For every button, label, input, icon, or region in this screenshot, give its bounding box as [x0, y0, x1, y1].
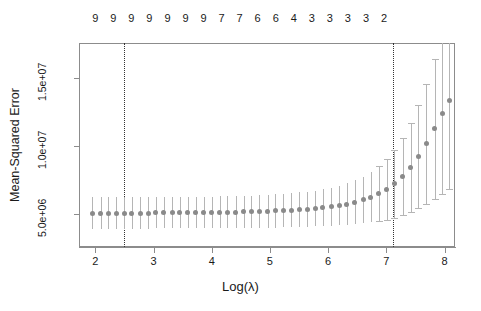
error-bar-cap — [408, 212, 415, 213]
x-tick — [386, 248, 387, 253]
error-bar-cap — [376, 166, 383, 167]
error-bar-cap — [408, 123, 415, 124]
x-tick-label: 8 — [435, 255, 455, 267]
error-bar-cap — [423, 84, 430, 85]
top-tick-label: 4 — [284, 12, 304, 24]
data-point — [209, 210, 214, 215]
x-tick-label: 6 — [318, 255, 338, 267]
data-point — [122, 211, 127, 216]
data-point — [281, 208, 286, 213]
top-tick-label: 9 — [157, 12, 177, 24]
top-tick-label: 3 — [320, 12, 340, 24]
top-tick-label: 7 — [230, 12, 250, 24]
top-tick-label: 6 — [248, 12, 268, 24]
error-bar-cap — [439, 194, 446, 195]
y-tick-label: 1.0e+07 — [36, 131, 48, 169]
x-axis-line — [79, 247, 456, 248]
data-point — [249, 209, 254, 214]
x-tick — [328, 248, 329, 253]
error-bar-cap — [432, 199, 439, 200]
x-tick — [154, 248, 155, 253]
data-point — [305, 207, 310, 212]
y-axis-label: Mean-Squared Error — [8, 88, 22, 202]
data-point — [177, 210, 182, 215]
x-tick-label: 3 — [144, 255, 164, 267]
error-bar-cap — [415, 105, 422, 106]
error-bar-cap — [432, 59, 439, 60]
error-bar — [449, 43, 450, 189]
error-bar-cap — [384, 220, 391, 221]
data-point — [416, 154, 421, 159]
error-bar — [442, 43, 443, 194]
top-tick-label: 9 — [121, 12, 141, 24]
x-tick-label: 4 — [202, 255, 222, 267]
error-bar-cap — [400, 215, 407, 216]
x-tick — [270, 248, 271, 253]
y-tick-label: 1.5e+07 — [36, 63, 48, 101]
data-point — [257, 209, 262, 214]
x-tick — [212, 248, 213, 253]
data-point — [273, 208, 278, 213]
data-point — [114, 211, 119, 216]
x-tick — [95, 248, 96, 253]
data-point — [368, 195, 373, 200]
top-tick-label: 3 — [302, 12, 322, 24]
x-axis-label: Log(λ) — [0, 279, 481, 294]
x-tick-label: 7 — [376, 255, 396, 267]
top-tick-label: 9 — [139, 12, 159, 24]
data-point — [98, 211, 103, 216]
error-bar-cap — [400, 138, 407, 139]
data-point — [361, 197, 366, 202]
data-point — [106, 211, 111, 216]
data-point — [447, 98, 452, 103]
data-point — [424, 141, 429, 146]
plot-area — [79, 43, 455, 247]
top-tick-label: 9 — [103, 12, 123, 24]
top-tick-label: 3 — [338, 12, 358, 24]
top-tick-label: 6 — [266, 12, 286, 24]
error-bar-cap — [384, 159, 391, 160]
data-point — [376, 191, 381, 196]
data-point — [384, 187, 389, 192]
x-tick-label: 5 — [260, 255, 280, 267]
data-point — [329, 204, 334, 209]
top-tick-label: 9 — [85, 12, 105, 24]
data-point — [265, 209, 270, 214]
data-point — [153, 210, 158, 215]
error-bar-cap — [446, 189, 453, 190]
error-bar-cap — [423, 204, 430, 205]
error-bar-cap — [391, 150, 398, 151]
data-point — [90, 211, 95, 216]
error-bar-cap — [391, 218, 398, 219]
data-point — [193, 210, 198, 215]
x-tick-label: 2 — [85, 255, 105, 267]
y-tick-label: 5.0e+06 — [36, 199, 48, 237]
data-point — [185, 210, 190, 215]
data-point — [161, 210, 166, 215]
top-tick-label: 3 — [356, 12, 376, 24]
data-point — [138, 211, 143, 216]
x-tick — [445, 248, 446, 253]
top-tick-label: 9 — [194, 12, 214, 24]
data-point — [400, 174, 405, 179]
data-point — [392, 181, 397, 186]
data-point — [432, 126, 437, 131]
data-point — [313, 206, 318, 211]
top-tick-label: 7 — [212, 12, 232, 24]
data-point — [337, 203, 342, 208]
data-point — [129, 211, 134, 216]
data-point — [217, 210, 222, 215]
cv-glmnet-plot: 99999997766433332 5.0e+061.0e+071.5e+07 … — [0, 0, 481, 311]
error-bar-cap — [376, 221, 383, 222]
data-point — [241, 209, 246, 214]
data-point — [146, 211, 151, 216]
data-point — [344, 202, 349, 207]
top-tick-label: 9 — [176, 12, 196, 24]
top-tick-label: 2 — [374, 12, 394, 24]
data-point — [352, 200, 357, 205]
data-point — [320, 205, 325, 210]
data-point — [170, 210, 175, 215]
data-point — [408, 165, 413, 170]
data-point — [297, 207, 302, 212]
data-point — [440, 111, 445, 116]
